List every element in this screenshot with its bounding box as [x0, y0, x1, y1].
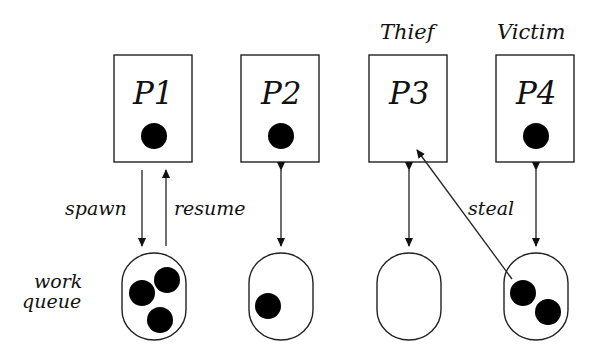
steal-label: steal — [468, 197, 514, 219]
processor-label-p3: P3 — [389, 75, 430, 111]
queue-task-dot — [129, 280, 155, 306]
victim-label: Victim — [497, 20, 565, 44]
task-dot-p4 — [523, 123, 549, 149]
queue-task-dot — [154, 267, 180, 293]
work-queue-label-line2: queue — [22, 290, 81, 312]
queue-p2 — [249, 253, 313, 340]
resume-label: resume — [174, 197, 246, 219]
diagram-graphics — [0, 0, 609, 364]
queue-task-dot — [510, 280, 536, 306]
thief-label: Thief — [380, 20, 434, 44]
processor-label-p2: P2 — [261, 75, 302, 111]
task-dot-p1 — [141, 123, 167, 149]
queue-task-dot — [147, 307, 173, 333]
queue-task-dot — [255, 293, 281, 319]
spawn-label: spawn — [65, 197, 127, 219]
task-dot-p2 — [268, 123, 294, 149]
queue-task-dot — [535, 299, 561, 325]
work-queue-label-line1: work — [34, 270, 82, 292]
processor-label-p4: P4 — [516, 75, 557, 111]
queue-p3 — [377, 253, 441, 340]
processor-label-p1: P1 — [133, 75, 174, 111]
work-stealing-diagram: Thief Victim P1 P2 P3 P4 spawn resume st… — [0, 0, 609, 364]
